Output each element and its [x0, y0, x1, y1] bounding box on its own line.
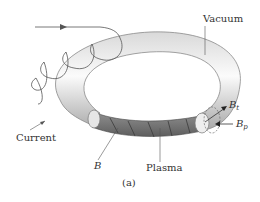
toroidal-field-label: Bt — [229, 100, 239, 112]
b-field-label: B — [94, 161, 101, 171]
tokamak-diagram: Vacuum Current B Plasma Bt Bp (a) — [0, 0, 260, 202]
figure-caption: (a) — [122, 178, 136, 188]
vessel-cut-left — [88, 110, 100, 128]
vacuum-vessel — [56, 32, 241, 130]
poloidal-field-label: Bp — [236, 119, 248, 131]
current-direction-arrow — [60, 24, 67, 30]
vacuum-label: Vacuum — [203, 14, 243, 24]
plasma-column — [92, 113, 206, 137]
bt-subscript: t — [236, 104, 239, 112]
current-label: Current — [16, 133, 56, 143]
plasma-label: Plasma — [146, 163, 182, 173]
bp-subscript: p — [243, 123, 247, 131]
b-leader — [98, 128, 118, 160]
torus-illustration — [0, 0, 260, 202]
